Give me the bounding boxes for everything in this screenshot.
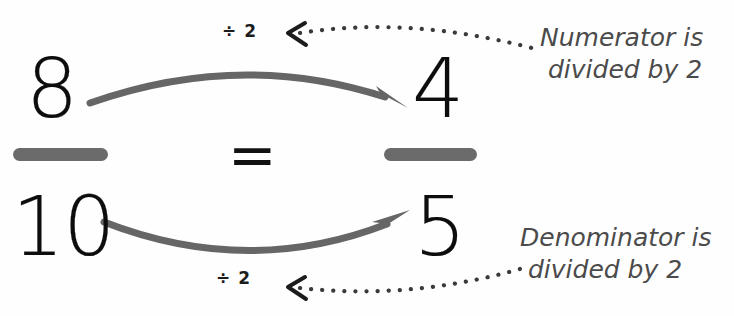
- callout-numerator-line-1: Numerator is: [540, 22, 703, 54]
- dotted-leader-numerator: [288, 23, 532, 48]
- callout-denominator-line-2: divided by 2: [520, 254, 712, 286]
- callout-denominator: Denominator is divided by 2: [520, 222, 712, 286]
- callout-denominator-line-1: Denominator is: [520, 222, 712, 254]
- divide-by-2-label-numerator: ÷ 2: [222, 21, 257, 41]
- divide-by-2-label-denominator: ÷ 2: [216, 268, 251, 288]
- equals-sign: =: [228, 126, 277, 184]
- left-fraction-numerator: 8: [26, 48, 77, 130]
- fraction-simplification-diagram: 8 10 = 4 5 ÷ 2 ÷ 2 Numerator is divided …: [0, 0, 734, 316]
- curved-arrow-numerator: [90, 75, 408, 108]
- right-fraction-numerator: 4: [412, 48, 463, 130]
- left-fraction-denominator: 10: [12, 186, 114, 268]
- fraction-bar-left: [13, 148, 108, 161]
- callout-numerator-line-2: divided by 2: [540, 54, 703, 86]
- curved-arrow-denominator: [104, 210, 410, 251]
- fraction-bar-right: [384, 148, 477, 161]
- right-fraction-denominator: 5: [414, 186, 465, 268]
- dotted-leader-denominator: [288, 269, 520, 299]
- callout-numerator: Numerator is divided by 2: [540, 22, 703, 86]
